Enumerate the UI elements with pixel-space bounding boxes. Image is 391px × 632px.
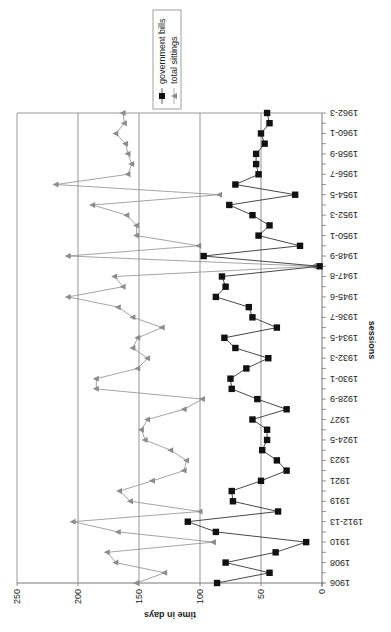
category-tick-label: 1919: [330, 496, 350, 506]
square-marker-icon: [259, 447, 265, 453]
square-marker-icon: [265, 355, 271, 361]
square-marker-icon: [274, 457, 280, 463]
square-marker-icon: [266, 222, 272, 228]
square-marker-icon: [266, 570, 272, 576]
square-marker-icon: [283, 467, 289, 473]
triangle-marker-icon: [89, 202, 95, 208]
category-tick-label: 1958-9: [330, 149, 358, 159]
category-tick-label: 1912-13: [330, 517, 363, 527]
triangle-marker-icon: [181, 406, 187, 412]
category-axis-title: sessions: [367, 321, 377, 360]
square-marker-icon: [226, 202, 232, 208]
category-tick-label: 1956-7: [330, 169, 358, 179]
square-marker-icon: [253, 161, 259, 167]
value-tick-label: 50: [256, 589, 266, 599]
legend-label-total-sittings: total sittings: [169, 36, 179, 84]
category-tick-label: 1932-3: [330, 353, 358, 363]
square-marker-icon: [159, 93, 165, 99]
category-tick-label: 1927: [330, 415, 350, 425]
square-marker-icon: [243, 365, 249, 371]
category-tick-label: 1962-3: [330, 108, 358, 118]
triangle-marker-icon: [93, 386, 99, 392]
triangle-marker-icon: [197, 508, 203, 514]
triangle-marker-icon: [104, 549, 110, 555]
triangle-marker-icon: [120, 284, 126, 290]
value-axis-ticks: 250200150100500: [12, 583, 327, 604]
triangle-marker-icon: [115, 529, 121, 535]
category-tick-label: 1928-9: [330, 394, 358, 404]
category-tick-label: 1924-5: [330, 435, 358, 445]
category-tick-label: 1921: [330, 476, 350, 486]
square-marker-icon: [266, 120, 272, 126]
triangle-marker-icon: [112, 130, 118, 136]
square-marker-icon: [221, 335, 227, 341]
value-axis-title: time in days: [144, 610, 196, 620]
triangle-marker-icon: [111, 273, 117, 279]
category-tick-label: 1945-6: [330, 292, 358, 302]
square-marker-icon: [249, 212, 255, 218]
triangle-marker-icon: [144, 417, 150, 423]
square-marker-icon: [255, 171, 261, 177]
category-tick-label: 1952-3: [330, 210, 358, 220]
category-tick-label: 1936-7: [330, 312, 358, 322]
category-axis-ticks: 1906190819101912-131919192119231924-5192…: [322, 108, 363, 588]
square-marker-icon: [249, 314, 255, 320]
triangle-marker-icon: [134, 365, 140, 371]
square-marker-icon: [258, 478, 264, 484]
square-marker-icon: [230, 498, 236, 504]
triangle-marker-icon: [65, 253, 71, 259]
square-marker-icon: [264, 427, 270, 433]
triangle-marker-icon: [53, 182, 59, 188]
triangle-marker-icon: [65, 294, 71, 300]
square-marker-icon: [246, 304, 252, 310]
category-tick-label: 1950-1: [330, 231, 358, 241]
triangle-marker-icon: [129, 345, 135, 351]
triangle-marker-icon: [112, 560, 118, 566]
category-tick-label: 1923: [330, 455, 350, 465]
square-marker-icon: [303, 539, 309, 545]
triangle-marker-icon: [116, 488, 122, 494]
square-marker-icon: [264, 110, 270, 116]
category-tick-label: 1947-8: [330, 271, 358, 281]
square-marker-icon: [261, 140, 267, 146]
category-tick-label: 1954-5: [330, 190, 358, 200]
value-tick-label: 250: [12, 589, 22, 604]
triangle-marker-icon: [210, 539, 216, 545]
square-marker-icon: [249, 416, 255, 422]
category-tick-label: 1930-1: [330, 374, 358, 384]
category-tick-label: 1908: [330, 558, 350, 568]
square-marker-icon: [232, 181, 238, 187]
square-marker-icon: [292, 192, 298, 198]
chart: 250200150100500 1906190819101912-1319191…: [0, 0, 391, 632]
square-marker-icon: [222, 559, 228, 565]
square-marker-icon: [272, 549, 278, 555]
category-tick-label: 1948-9: [330, 251, 358, 261]
square-marker-icon: [232, 345, 238, 351]
square-marker-icon: [316, 263, 322, 269]
triangle-marker-icon: [120, 110, 126, 116]
square-marker-icon: [297, 243, 303, 249]
square-marker-icon: [213, 529, 219, 535]
category-tick-label: 1934-5: [330, 333, 358, 343]
category-tick-label: 1960-1: [330, 128, 358, 138]
square-marker-icon: [255, 232, 261, 238]
square-marker-icon: [264, 437, 270, 443]
triangle-marker-icon: [93, 376, 99, 382]
legend: government bills total sittings: [153, 10, 181, 109]
triangle-marker-icon: [161, 570, 167, 576]
triangle-marker-icon: [70, 519, 76, 525]
triangle-marker-icon: [159, 325, 165, 331]
triangle-marker-icon: [115, 304, 121, 310]
plot-area: [17, 113, 324, 587]
value-tick-label: 200: [73, 589, 83, 604]
value-tick-label: 0: [317, 589, 327, 594]
square-marker-icon: [254, 396, 260, 402]
legend-label-government-bills: government bills: [157, 18, 167, 84]
square-marker-icon: [283, 406, 289, 412]
square-marker-icon: [258, 130, 264, 136]
square-marker-icon: [229, 488, 235, 494]
value-tick-label: 100: [195, 589, 205, 604]
square-marker-icon: [219, 273, 225, 279]
square-marker-icon: [214, 580, 220, 586]
square-marker-icon: [200, 253, 206, 259]
